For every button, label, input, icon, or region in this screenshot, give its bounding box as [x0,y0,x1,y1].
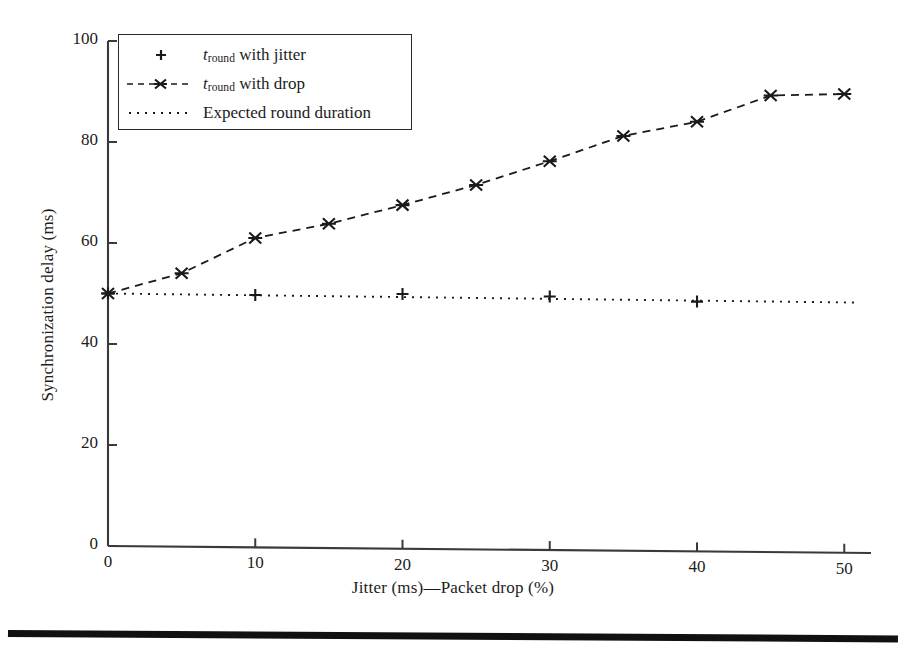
legend-label-expected: Expected round duration [199,103,371,123]
legend-label-suffix: with drop [235,74,305,93]
y-tick-label: 80 [52,130,98,150]
legend-label-drop: tround with drop [199,74,305,94]
dashed-x-line-icon [125,74,199,94]
figure-container: 0 20 40 60 80 100 0 10 20 30 40 50 Synch… [0,0,906,650]
y-tick-label: 0 [52,534,98,554]
x-tick-label: 10 [232,553,278,573]
x-tick-label: 30 [527,556,573,576]
y-tick-label: 60 [52,231,98,251]
x-tick-label: 20 [380,555,426,575]
y-tick-label: 40 [52,332,98,352]
legend-item-drop: tround with drop [119,69,411,98]
x-tick-label: 50 [821,559,867,579]
y-tick-label: 100 [52,29,98,49]
x-tick-label: 0 [85,552,131,572]
dotted-line-icon [125,103,199,123]
legend-label-suffix: with jitter [235,45,306,64]
y-axis-title: Synchronization delay (ms) [38,125,58,485]
legend-symbol-sub: round [208,81,235,93]
legend-label-suffix: Expected round duration [203,103,371,122]
legend-item-expected: Expected round duration [119,98,411,127]
legend-item-jitter: tround with jitter [119,40,411,69]
plus-marker-icon [125,45,199,65]
x-tick-label: 40 [674,557,720,577]
y-tick-label: 20 [52,433,98,453]
legend-box: tround with jitter tround with drop Exp [118,34,412,130]
legend-symbol-sub: round [208,52,235,64]
legend-label-jitter: tround with jitter [199,45,306,65]
x-axis-title: Jitter (ms)—Packet drop (%) [0,578,906,598]
